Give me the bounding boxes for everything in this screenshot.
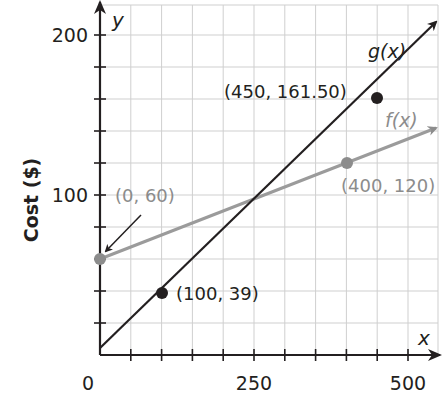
label-0-60: (0, 60) — [115, 185, 175, 206]
label-400-120: (400, 120) — [341, 175, 435, 196]
point-f-0-60 — [94, 253, 106, 265]
y-tick-label-100: 100 — [52, 184, 88, 206]
x-axis-variable: x — [417, 326, 430, 350]
f-function-label: f(x) — [385, 109, 418, 131]
y-tick-label-200: 200 — [52, 24, 88, 46]
point-g-100-39 — [156, 287, 168, 299]
x-tick-label-0: 0 — [82, 372, 94, 394]
label-100-39: (100, 39) — [176, 283, 259, 304]
point-g-450-161 — [371, 92, 383, 104]
cost-chart: 0 250 500 200 100 y x Cost ($) (0, 60) (… — [0, 0, 442, 414]
point-f-400-120 — [341, 157, 353, 169]
label-450-161: (450, 161.50) — [224, 81, 347, 102]
y-axis-title: Cost ($) — [20, 158, 42, 243]
x-tick-label-500: 500 — [390, 372, 426, 394]
y-axis-variable: y — [111, 8, 125, 32]
g-function-label: g(x) — [368, 40, 406, 62]
x-tick-label-250: 250 — [236, 372, 272, 394]
